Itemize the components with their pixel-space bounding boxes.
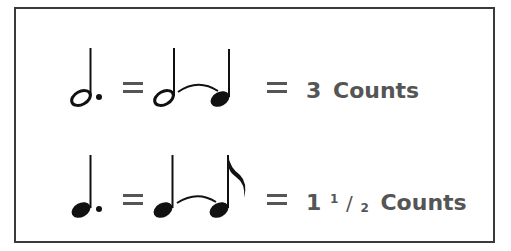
tie-icon [177,196,216,203]
equals-icon [267,82,287,93]
quarter-note-icon [208,49,232,110]
equals-icon [123,82,143,93]
row-dotted-quarter: 1 1 / 2 Counts [69,155,467,221]
row-dotted-half: 3 Counts [69,48,419,110]
count-text: 1 1 / 2 Counts [306,183,467,217]
notation-diagram: 3 Counts 1 1 / [0,0,511,251]
equals-icon [123,194,143,205]
equals-icon [267,194,287,205]
tie-icon [178,85,218,92]
dotted-quarter-note-icon [69,155,102,221]
quarter-note-icon [151,155,175,221]
eighth-note-icon [207,155,245,221]
half-note-icon [152,48,176,108]
dotted-half-note-icon [69,48,102,108]
count-text: 3 Counts [306,78,419,103]
